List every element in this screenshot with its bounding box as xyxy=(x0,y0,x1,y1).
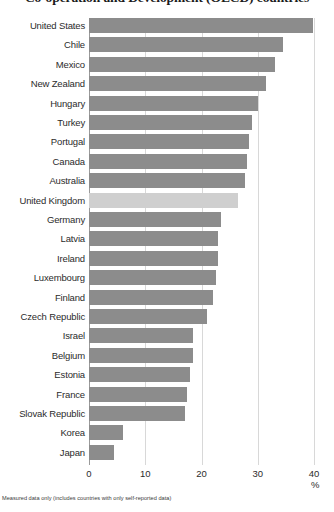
bar-row xyxy=(89,96,314,111)
bar-new-zealand xyxy=(89,76,266,91)
category-label-finland: Finland xyxy=(0,290,85,305)
chart-title: Co-operation and Development (OECD) coun… xyxy=(0,0,334,5)
category-label-belgium: Belgium xyxy=(0,348,85,363)
category-label-portugal: Portugal xyxy=(0,134,85,149)
gridline-40 xyxy=(314,18,315,465)
bar-row xyxy=(89,425,314,440)
x-axis-unit-label: % xyxy=(311,479,319,491)
bar-hungary xyxy=(89,96,258,111)
bar-row xyxy=(89,193,314,208)
bar-row xyxy=(89,76,314,91)
category-label-new-zealand: New Zealand xyxy=(0,76,85,91)
bar-ireland xyxy=(89,251,218,266)
bar-chile xyxy=(89,37,283,52)
bar-row xyxy=(89,348,314,363)
category-label-germany: Germany xyxy=(0,212,85,227)
bar-finland xyxy=(89,290,213,305)
bar-row xyxy=(89,18,314,33)
category-label-japan: Japan xyxy=(0,445,85,460)
bar-united-states xyxy=(89,18,313,33)
bar-row xyxy=(89,57,314,72)
category-label-france: France xyxy=(0,387,85,402)
bar-czech-republic xyxy=(89,309,207,324)
bar-estonia xyxy=(89,367,190,382)
bar-row xyxy=(89,367,314,382)
category-label-estonia: Estonia xyxy=(0,367,85,382)
category-label-chile: Chile xyxy=(0,37,85,52)
category-label-turkey: Turkey xyxy=(0,115,85,130)
bar-japan xyxy=(89,445,114,460)
bar-row xyxy=(89,37,314,52)
x-tick-label-10: 10 xyxy=(140,468,151,480)
bar-row xyxy=(89,154,314,169)
category-label-ireland: Ireland xyxy=(0,251,85,266)
bar-australia xyxy=(89,173,245,188)
bar-turkey xyxy=(89,115,252,130)
bar-united-kingdom xyxy=(89,193,238,208)
bar-row xyxy=(89,445,314,460)
category-label-slovak-republic: Slovak Republic xyxy=(0,406,85,421)
category-label-hungary: Hungary xyxy=(0,96,85,111)
bar-row xyxy=(89,309,314,324)
bar-latvia xyxy=(89,231,218,246)
bar-canada xyxy=(89,154,247,169)
bar-luxembourg xyxy=(89,270,216,285)
x-tick-label-30: 30 xyxy=(252,468,263,480)
chart-footnote: Measured data only (includes countries w… xyxy=(2,494,171,502)
category-label-luxembourg: Luxembourg xyxy=(0,270,85,285)
bar-portugal xyxy=(89,134,249,149)
bar-korea xyxy=(89,425,123,440)
x-axis-tick-labels: 010203040 xyxy=(89,468,314,482)
category-label-israel: Israel xyxy=(0,328,85,343)
bar-row xyxy=(89,290,314,305)
category-label-united-kingdom: United Kingdom xyxy=(0,193,85,208)
bar-chart: Co-operation and Development (OECD) coun… xyxy=(0,0,334,512)
bar-row xyxy=(89,212,314,227)
bar-row xyxy=(89,173,314,188)
bar-row xyxy=(89,231,314,246)
bar-row xyxy=(89,115,314,130)
bar-row xyxy=(89,406,314,421)
category-label-canada: Canada xyxy=(0,154,85,169)
category-label-mexico: Mexico xyxy=(0,57,85,72)
bar-slovak-republic xyxy=(89,406,185,421)
bar-row xyxy=(89,134,314,149)
bar-mexico xyxy=(89,57,275,72)
bar-germany xyxy=(89,212,221,227)
bar-row xyxy=(89,270,314,285)
category-label-latvia: Latvia xyxy=(0,231,85,246)
plot-area xyxy=(89,18,314,465)
category-axis-labels: United StatesChileMexicoNew ZealandHunga… xyxy=(0,18,85,465)
bar-row xyxy=(89,387,314,402)
x-tick-label-0: 0 xyxy=(86,468,91,480)
bar-belgium xyxy=(89,348,193,363)
category-label-australia: Australia xyxy=(0,173,85,188)
bar-row xyxy=(89,328,314,343)
category-label-czech-republic: Czech Republic xyxy=(0,309,85,324)
bar-series xyxy=(89,18,314,465)
bar-israel xyxy=(89,328,193,343)
category-label-united-states: United States xyxy=(0,18,85,33)
bar-row xyxy=(89,251,314,266)
category-label-korea: Korea xyxy=(0,425,85,440)
bar-france xyxy=(89,387,187,402)
x-tick-label-20: 20 xyxy=(196,468,207,480)
